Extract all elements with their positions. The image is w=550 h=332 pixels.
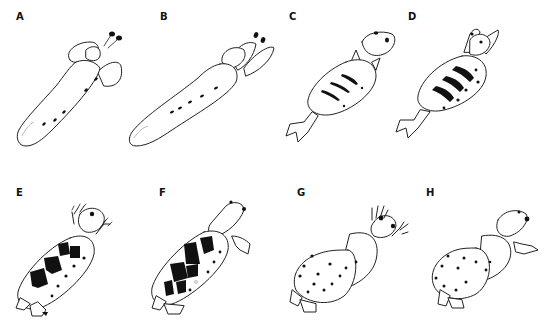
drawing-d <box>396 29 499 138</box>
drawing-h <box>432 211 538 309</box>
drawing-c <box>286 31 395 142</box>
illustrations <box>0 0 550 332</box>
figure: A B C D E F G H <box>0 0 550 332</box>
drawing-a <box>17 32 122 147</box>
drawing-e <box>16 204 112 316</box>
drawing-f <box>152 200 250 314</box>
drawing-b <box>129 31 274 146</box>
drawing-g <box>290 206 408 312</box>
